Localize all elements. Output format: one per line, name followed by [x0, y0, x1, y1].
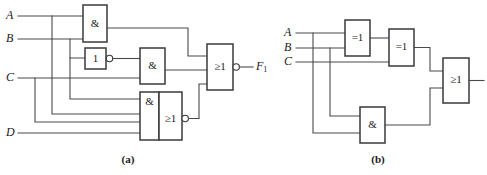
wire-orlow-to-or: [189, 84, 207, 119]
gate-and-b-label: &: [368, 118, 377, 130]
input-label-c: C: [6, 70, 15, 84]
gate-or-out-label: ≥1: [214, 60, 226, 72]
not-output-bubble-icon: [106, 55, 112, 61]
panel-b: =1 =1 & ≥1 A B C (b): [283, 20, 484, 166]
gate-and-low-label: &: [145, 95, 154, 107]
panel-a: & 1 & & ≥1 ≥1: [5, 5, 267, 166]
input-label-b-b: B: [284, 40, 292, 54]
caption-b: (b): [371, 153, 385, 166]
gate-or-low-label: ≥1: [165, 112, 177, 124]
wire-c-branch-down: [35, 78, 140, 122]
gate-xor-1-label: =1: [352, 31, 364, 43]
output-label-f1-sub: 1: [263, 65, 267, 74]
caption-a: (a): [122, 153, 135, 166]
output-label-f1: F1: [255, 59, 267, 74]
circuit-svg: & 1 & & ≥1 ≥1: [0, 0, 487, 175]
or-low-output-bubble-icon: [182, 115, 188, 121]
or-out-bubble-icon: [233, 64, 239, 70]
input-label-a: A: [5, 8, 14, 22]
gate-xor-2-label: =1: [396, 40, 408, 52]
gate-and-top-label: &: [91, 17, 100, 29]
logic-circuit-figure: & 1 & & ≥1 ≥1: [0, 0, 487, 175]
input-label-b-a: A: [283, 25, 292, 39]
gate-not-1-label: 1: [93, 52, 99, 64]
input-label-b-c: C: [284, 54, 293, 68]
wire-andb-to-or: [385, 88, 443, 125]
wire-xor2-to-or: [414, 48, 443, 72]
input-label-b: B: [6, 31, 14, 45]
input-label-d: D: [5, 125, 15, 139]
gate-and-mid-label: &: [148, 59, 157, 71]
gate-or-b-label: ≥1: [450, 73, 462, 85]
wire-b-b-branch: [330, 48, 360, 116]
